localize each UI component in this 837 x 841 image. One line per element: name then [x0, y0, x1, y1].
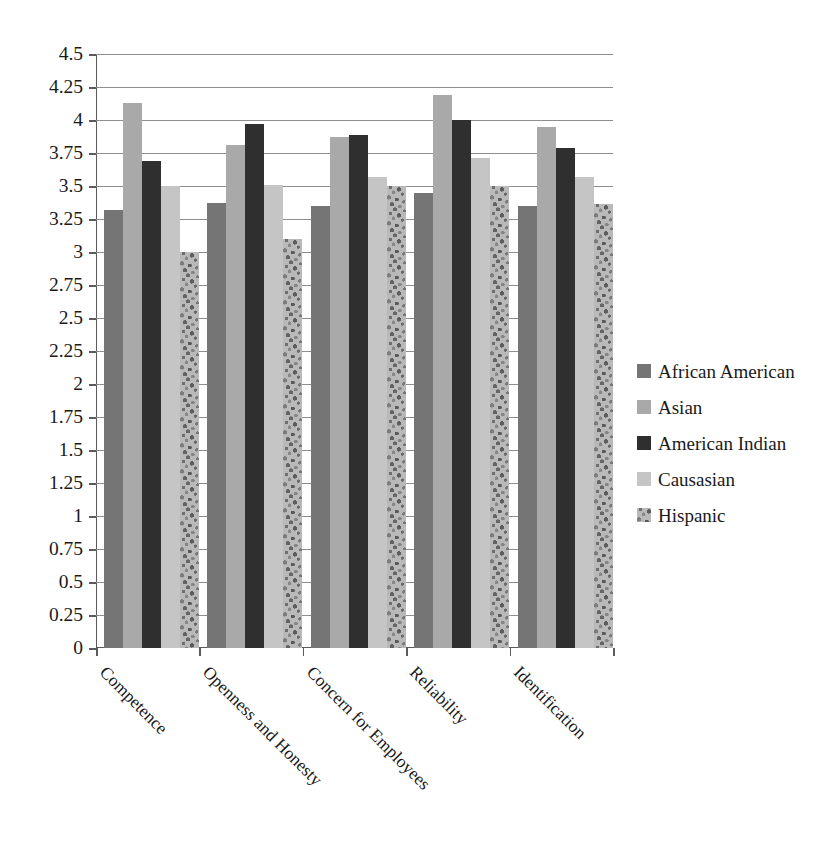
y-tick-mark — [89, 153, 96, 155]
y-tick-label: 2.75 — [49, 275, 83, 295]
legend-item[interactable]: Causasian — [637, 461, 837, 497]
bar — [349, 135, 368, 648]
y-tick-mark — [89, 582, 96, 584]
x-tick-mark — [96, 648, 98, 656]
x-axis-label: Identification — [509, 662, 591, 744]
x-tick-mark — [406, 648, 408, 656]
legend-label: American Indian — [658, 434, 786, 453]
y-tick-label: 1.75 — [49, 407, 83, 427]
y-tick-label: 4 — [73, 110, 83, 130]
legend-label: Causasian — [658, 470, 735, 489]
y-tick-label: 0.5 — [59, 572, 83, 592]
y-tick-mark — [89, 186, 96, 188]
bar — [245, 124, 264, 648]
y-tick-mark — [89, 648, 96, 650]
bar — [537, 127, 556, 648]
y-tick-mark — [89, 87, 96, 89]
legend-item[interactable]: African American — [637, 353, 837, 389]
bar — [311, 206, 330, 648]
x-axis-label-text: Competence — [95, 662, 172, 739]
y-tick-label: 4.5 — [59, 44, 83, 64]
y-tick-label: 0.25 — [49, 605, 83, 625]
bar-group — [303, 54, 406, 648]
bar — [180, 252, 199, 648]
y-tick-label: 1 — [73, 506, 83, 526]
y-tick-label: 1.5 — [59, 440, 83, 460]
bar — [452, 120, 471, 648]
bar-groups — [96, 54, 613, 648]
y-tick-label: 0.75 — [49, 539, 83, 559]
legend-item[interactable]: American Indian — [637, 425, 837, 461]
x-axis-label: Competence — [95, 662, 172, 739]
y-tick-mark — [89, 54, 96, 56]
plot-area: 00.250.50.7511.251.51.7522.252.52.7533.2… — [96, 54, 613, 648]
x-tick-mark — [199, 648, 201, 656]
legend-item[interactable]: Asian — [637, 389, 837, 425]
bar — [330, 137, 349, 648]
x-tick-mark — [510, 648, 512, 656]
y-tick-mark — [89, 384, 96, 386]
bar — [207, 203, 226, 648]
y-tick-mark — [89, 351, 96, 353]
bar-chart: 00.250.50.7511.251.51.7522.252.52.7533.2… — [0, 0, 837, 841]
y-tick-label: 2.25 — [49, 341, 83, 361]
legend-swatch-icon — [637, 472, 651, 486]
y-tick-mark — [89, 252, 96, 254]
legend-label: Hispanic — [658, 506, 726, 525]
x-axis-label-text: Identification — [509, 662, 591, 744]
bar — [433, 95, 452, 648]
bar — [264, 185, 283, 648]
x-tick-mark — [613, 648, 615, 656]
bar — [471, 158, 490, 648]
y-tick-mark — [89, 549, 96, 551]
bar — [387, 186, 406, 648]
bar-group — [510, 54, 613, 648]
bar — [142, 161, 161, 648]
bar — [226, 145, 245, 648]
bar — [490, 186, 509, 648]
bar-group — [199, 54, 302, 648]
legend-swatch-icon — [637, 436, 651, 450]
y-tick-label: 1.25 — [49, 473, 83, 493]
bar — [283, 239, 302, 648]
y-tick-label: 3.75 — [49, 143, 83, 163]
bar — [414, 193, 433, 648]
y-tick-label: 3 — [73, 242, 83, 262]
y-tick-mark — [89, 417, 96, 419]
y-tick-label: 0 — [73, 638, 83, 658]
chart-legend: African AmericanAsianAmerican IndianCaus… — [637, 353, 837, 533]
y-tick-label: 3.25 — [49, 209, 83, 229]
x-tick-mark — [303, 648, 305, 656]
bar-group — [96, 54, 199, 648]
legend-swatch-icon — [637, 364, 651, 378]
bar — [518, 206, 537, 648]
bar — [104, 210, 123, 648]
legend-swatch-icon — [637, 400, 651, 414]
x-axis-label: Reliability — [405, 662, 472, 729]
bar-group — [406, 54, 509, 648]
x-axis-label-text: Reliability — [405, 662, 472, 729]
y-tick-mark — [89, 120, 96, 122]
bar — [556, 148, 575, 648]
y-tick-label: 2.5 — [59, 308, 83, 328]
y-tick-label: 4.25 — [49, 77, 83, 97]
bar — [123, 103, 142, 648]
bar — [594, 204, 613, 648]
x-axis-labels: CompetenceOpenness and HonestyConcern fo… — [96, 656, 613, 776]
y-tick-mark — [89, 516, 96, 518]
bar — [575, 177, 594, 648]
y-tick-mark — [89, 219, 96, 221]
y-tick-mark — [89, 450, 96, 452]
bar — [368, 177, 387, 648]
y-tick-mark — [89, 483, 96, 485]
legend-item[interactable]: Hispanic — [637, 497, 837, 533]
bar — [161, 186, 180, 648]
legend-swatch-icon — [637, 508, 651, 522]
y-tick-mark — [89, 285, 96, 287]
y-tick-mark — [89, 615, 96, 617]
y-tick-label: 3.5 — [59, 176, 83, 196]
legend-label: Asian — [658, 398, 702, 417]
y-tick-mark — [89, 318, 96, 320]
legend-label: African American — [658, 362, 795, 381]
y-tick-label: 2 — [73, 374, 83, 394]
